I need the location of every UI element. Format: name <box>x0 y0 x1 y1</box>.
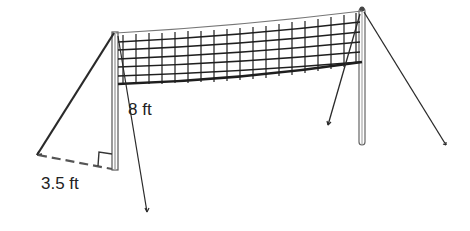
ground-measure <box>38 152 112 169</box>
net <box>116 11 362 84</box>
volleyball-net-diagram: 8 ft 3.5 ft <box>0 0 470 231</box>
left-outer-wire <box>37 33 114 155</box>
left-front-wire <box>118 36 147 212</box>
base-label: 3.5 ft <box>41 175 79 192</box>
right-outer-wire <box>364 12 446 145</box>
dashed-base-line <box>38 155 112 169</box>
guy-wires <box>37 12 446 212</box>
diagram-canvas <box>0 0 470 231</box>
right-pole <box>359 7 365 146</box>
left-pole <box>112 32 118 170</box>
right-angle-marker <box>98 152 112 166</box>
height-label: 8 ft <box>128 101 152 118</box>
